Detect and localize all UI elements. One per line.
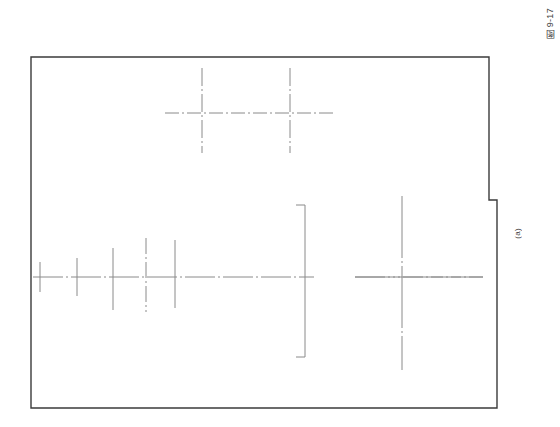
lower-vertical-mark-group (40, 238, 175, 312)
section-bracket (296, 205, 305, 357)
main-part-outline (31, 57, 497, 408)
figure-number-label: 图 9-17 (543, 8, 556, 39)
technical-drawing-canvas (0, 0, 560, 427)
view-label: (a) (513, 228, 522, 239)
drawing-page: 图 9-17 (a) (0, 0, 560, 427)
